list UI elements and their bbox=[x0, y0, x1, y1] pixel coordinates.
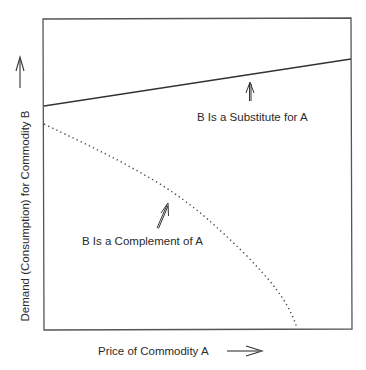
plot-frame bbox=[43, 18, 352, 330]
x-axis-arrow-icon bbox=[227, 346, 262, 356]
substitute-label: B Is a Substitute for A bbox=[197, 111, 308, 123]
complement-curve bbox=[44, 124, 297, 328]
complement-arrow-icon bbox=[157, 203, 169, 229]
y-axis-label: Demand (Consumption) for Commodity B bbox=[19, 110, 31, 321]
y-axis-arrow-icon bbox=[16, 57, 24, 88]
demand-diagram: B Is a Substitute for A B Is a Complemen… bbox=[0, 0, 366, 370]
substitute-arrow-icon bbox=[246, 82, 254, 101]
complement-label: B Is a Complement of A bbox=[82, 235, 203, 247]
x-axis-label: Price of Commodity A bbox=[98, 345, 209, 357]
substitute-line bbox=[44, 59, 351, 106]
